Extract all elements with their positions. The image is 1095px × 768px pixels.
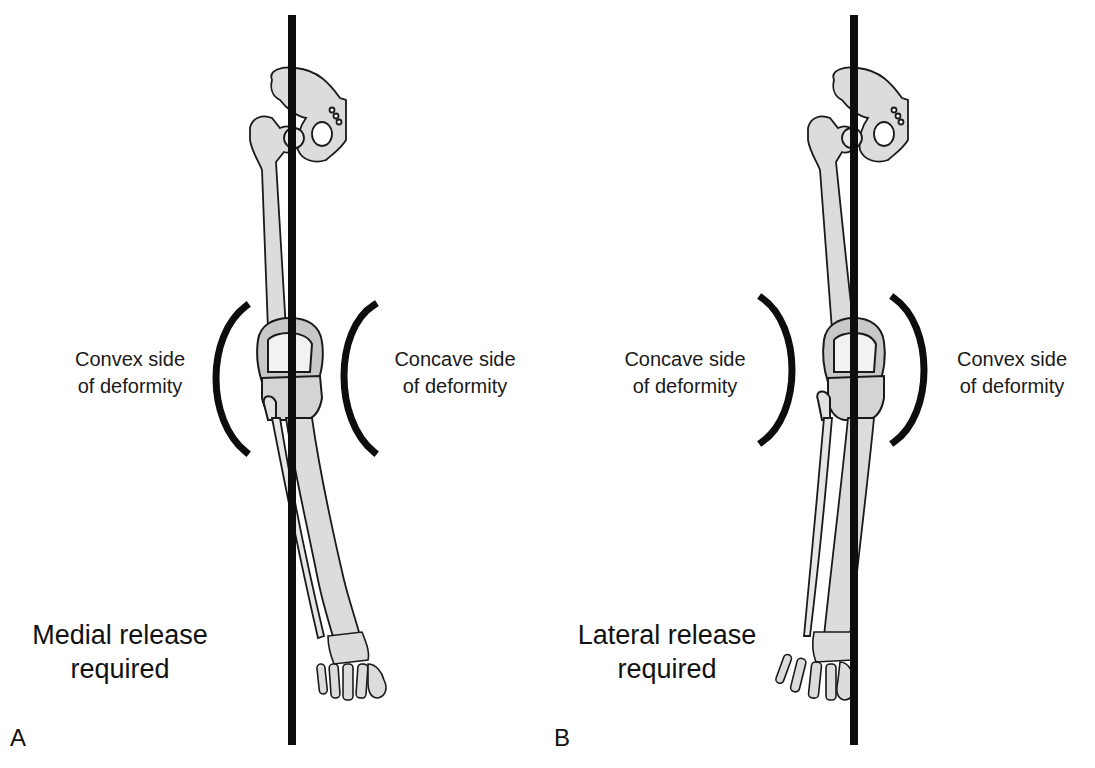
convex-arc-b <box>894 298 924 442</box>
label-line: Concave side <box>600 346 770 373</box>
tibia-fibula-icon <box>804 418 874 636</box>
release-label-b: Lateral release required <box>554 618 780 686</box>
left-deformity-label-a: Convex side of deformity <box>50 346 210 400</box>
release-line: Medial release <box>10 618 230 652</box>
foot-icon <box>317 632 386 700</box>
release-line: required <box>10 652 230 686</box>
release-label-a: Medial release required <box>10 618 230 686</box>
right-deformity-label-a: Concave side of deformity <box>380 346 530 400</box>
mechanical-axis-line-b <box>850 15 858 745</box>
right-deformity-label-b: Convex side of deformity <box>942 346 1082 400</box>
concave-arc-a <box>344 305 374 452</box>
mechanical-axis-line-a <box>288 15 296 745</box>
release-line: required <box>554 652 780 686</box>
label-line: Concave side <box>380 346 530 373</box>
label-line: Convex side <box>942 346 1082 373</box>
label-line: of deformity <box>942 373 1082 400</box>
release-line: Lateral release <box>554 618 780 652</box>
left-deformity-label-b: Concave side of deformity <box>600 346 770 400</box>
foot-icon <box>775 632 855 700</box>
label-line: of deformity <box>380 373 530 400</box>
panel-letter-b: B <box>554 724 570 752</box>
panel-a: Convex side of deformity Concave side of… <box>0 0 548 768</box>
label-line: of deformity <box>50 373 210 400</box>
tibia-fibula-icon <box>272 418 360 640</box>
panel-letter-a: A <box>10 724 26 752</box>
label-line: Convex side <box>50 346 210 373</box>
panel-b: Concave side of deformity Convex side of… <box>548 0 1095 768</box>
label-line: of deformity <box>600 373 770 400</box>
convex-arc-a <box>216 306 246 452</box>
